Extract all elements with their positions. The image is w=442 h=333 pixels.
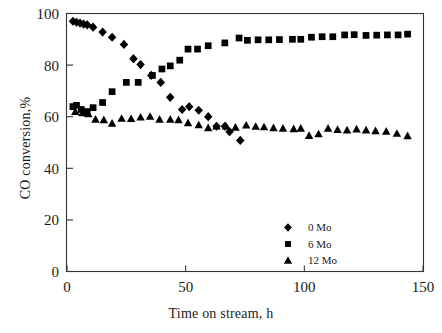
data-point — [108, 33, 116, 42]
data-point — [242, 121, 250, 129]
data-point — [108, 119, 116, 127]
data-point — [231, 123, 239, 131]
series-12-mo — [71, 107, 412, 139]
data-point — [99, 99, 106, 106]
data-point — [319, 33, 326, 40]
y-axis-label: CO conversion,% — [18, 68, 34, 228]
legend-label: 6 Mo — [308, 238, 332, 250]
x-tick-label: 150 — [412, 279, 435, 295]
x-tick-label: 100 — [293, 279, 316, 295]
legend-marker-diamond — [284, 223, 292, 231]
data-point — [384, 32, 391, 39]
data-point — [155, 115, 163, 123]
data-point — [185, 102, 193, 111]
y-tick-label: 40 — [44, 161, 59, 177]
data-point — [204, 123, 212, 131]
x-axis-tick-labels: 050100150 — [63, 279, 434, 295]
data-point — [185, 46, 192, 53]
x-tick-label: 50 — [178, 279, 193, 295]
x-axis-ticks — [67, 266, 423, 272]
data-point — [265, 36, 272, 43]
data-point — [194, 106, 202, 115]
data-point — [91, 115, 99, 123]
legend-marker-square — [285, 241, 291, 247]
data-point — [100, 115, 108, 123]
data-point — [205, 42, 212, 49]
data-point — [289, 125, 297, 133]
legend-label: 0 Mo — [308, 221, 332, 233]
data-point — [244, 37, 251, 44]
data-point — [393, 129, 401, 137]
data-point — [260, 123, 268, 131]
data-series-layer — [69, 17, 412, 145]
chart-figure: 020406080100 050100150 0 Mo6 Mo12 Mo CO … — [0, 0, 442, 333]
data-point — [305, 131, 313, 139]
data-point — [98, 27, 106, 36]
data-point — [351, 31, 358, 38]
data-point — [324, 124, 332, 132]
data-point — [127, 114, 135, 122]
data-point — [314, 130, 322, 138]
data-point — [120, 40, 128, 49]
data-point — [90, 104, 97, 111]
y-axis-ticks — [67, 14, 73, 272]
data-point — [373, 32, 380, 39]
data-point — [333, 125, 341, 133]
data-point — [178, 105, 186, 114]
data-point — [297, 124, 305, 132]
data-point — [255, 36, 262, 43]
data-point — [363, 32, 370, 39]
data-point — [194, 46, 201, 53]
y-tick-label: 20 — [44, 212, 59, 228]
data-point — [136, 113, 144, 121]
data-point — [352, 125, 360, 133]
y-tick-label: 0 — [52, 264, 60, 280]
data-point — [362, 126, 370, 134]
data-point — [329, 33, 336, 40]
data-point — [195, 121, 203, 129]
data-point — [166, 93, 174, 102]
legend-marker-triangle — [284, 256, 292, 263]
data-point — [308, 34, 315, 41]
data-point — [382, 127, 390, 135]
data-point — [109, 88, 116, 95]
data-point — [176, 57, 183, 64]
x-axis-label: Time on stream, h — [0, 306, 442, 322]
data-point — [146, 112, 154, 120]
data-point — [403, 131, 411, 139]
y-axis-tick-labels: 020406080100 — [37, 6, 60, 280]
data-point — [236, 136, 244, 145]
data-point — [136, 60, 144, 69]
data-point — [343, 126, 351, 134]
data-point — [174, 115, 182, 123]
y-tick-label: 100 — [37, 6, 60, 22]
y-tick-label: 80 — [44, 58, 59, 74]
data-point — [204, 112, 212, 121]
y-tick-label: 60 — [44, 109, 59, 125]
data-point — [269, 123, 277, 131]
co-conversion-scatter-chart: 020406080100 050100150 0 Mo6 Mo12 Mo — [0, 0, 442, 333]
legend-label: 12 Mo — [308, 254, 338, 266]
plot-frame — [67, 14, 424, 272]
data-point — [371, 127, 379, 135]
data-point — [276, 36, 283, 43]
data-point — [279, 124, 287, 132]
data-point — [157, 78, 165, 87]
data-point — [166, 115, 174, 123]
data-point — [395, 32, 402, 39]
data-point — [251, 122, 259, 130]
data-point — [129, 54, 137, 63]
data-point — [184, 119, 192, 127]
x-tick-label: 0 — [63, 279, 71, 295]
data-point — [159, 66, 166, 73]
data-point — [404, 31, 411, 38]
data-point — [135, 79, 142, 86]
data-point — [289, 36, 296, 43]
data-point — [117, 114, 125, 122]
data-point — [297, 36, 304, 43]
data-point — [167, 63, 174, 70]
chart-legend: 0 Mo6 Mo12 Mo — [284, 221, 338, 266]
data-point — [123, 79, 130, 86]
data-point — [341, 32, 348, 39]
data-point — [149, 72, 156, 79]
